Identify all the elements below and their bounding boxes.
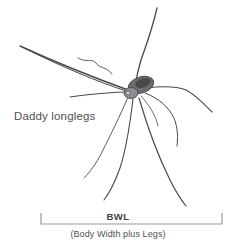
leg-right-upper [146, 87, 212, 112]
daddy-longlegs-illustration [0, 0, 236, 247]
leg-left-horizontal [70, 92, 130, 97]
eye-tubercle [126, 91, 130, 95]
leg-upper-vertical [135, 8, 157, 87]
leg-upper-left-knee [78, 58, 112, 74]
measurement-abbreviation: BWL [0, 211, 236, 222]
leg-lower-right [139, 98, 186, 206]
species-label: Daddy longlegs [14, 110, 95, 122]
spider-body [124, 73, 156, 98]
leg-right-lower [145, 93, 178, 146]
measurement-caption: (Body Width plus Legs) [0, 229, 236, 239]
spider-legs [20, 8, 212, 206]
daddy-longlegs-figure: Daddy longlegs BWL (Body Width plus Legs… [0, 0, 236, 247]
leg-upper-left-outer [20, 46, 128, 90]
leg-lower-center [104, 99, 133, 200]
